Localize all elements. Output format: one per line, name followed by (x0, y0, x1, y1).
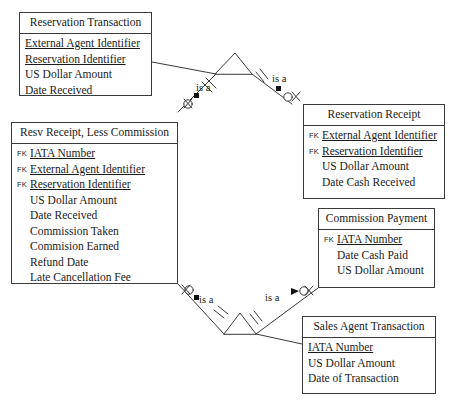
attribute-name: Reservation Identifier (25, 53, 126, 65)
attribute-name: Reservation Identifier (322, 145, 423, 157)
attribute-row: Date Received (17, 208, 172, 224)
fk-marker: FK (309, 128, 322, 144)
attribute-row: FKExternal Agent Identifier (17, 162, 172, 178)
mandatory-arrow-bottom-right (291, 288, 299, 295)
entity-attribute-list: FKIATA Number FKExternal Agent Identifie… (12, 144, 177, 289)
relationship-label-top-left: is a (196, 82, 210, 93)
cardinality-bar-bottom-left-b (218, 306, 228, 314)
cardinality-bar-top-right-b (260, 69, 268, 79)
entity-title: Commission Payment (319, 209, 434, 230)
attribute-name: Reservation Identifier (30, 178, 131, 190)
attribute-row: Commision Earned (17, 239, 172, 255)
attribute-row: US Dollar Amount (309, 159, 439, 175)
attribute-name: External Agent Identifier (30, 163, 145, 175)
attribute-row: External Agent Identifier (25, 36, 146, 52)
attribute-name: US Dollar Amount (308, 357, 395, 369)
fk-marker: FK (309, 144, 322, 160)
optional-circle-top-left (184, 100, 192, 108)
crowsfoot-top-right (292, 92, 300, 101)
attribute-name: External Agent Identifier (322, 129, 437, 141)
attribute-row: FKIATA Number (17, 146, 172, 162)
entity-attribute-list: FKExternal Agent Identifier FKReservatio… (304, 126, 444, 193)
attribute-row: Late Cancellation Fee (17, 270, 172, 286)
attribute-name: Late Cancellation Fee (30, 271, 131, 283)
attribute-name: Date Received (30, 209, 97, 221)
attribute-row: Date Received (25, 83, 146, 99)
entity-resv-receipt-less-commission[interactable]: Resv Receipt, Less Commission FKIATA Num… (11, 122, 178, 284)
bottom-subtype-triangle (224, 313, 256, 334)
line-subtype-resv-receipt-less-commission (178, 74, 216, 112)
attribute-row: FKReservation Identifier (309, 144, 439, 160)
attribute-name: US Dollar Amount (25, 68, 112, 80)
attribute-row: IATA Number (308, 340, 430, 356)
attribute-row: US Dollar Amount (324, 263, 429, 279)
crowsfoot-bottom-right (305, 286, 313, 295)
optional-circle-bottom-left (185, 286, 193, 294)
attribute-name: US Dollar Amount (30, 194, 117, 206)
attribute-row: Date Cash Paid (324, 248, 429, 264)
attribute-name: External Agent Identifier (25, 37, 140, 49)
fk-marker: FK (17, 146, 30, 162)
entity-title: Reservation Receipt (304, 105, 444, 126)
entity-title: Sales Agent Transaction (303, 317, 435, 338)
attribute-row: US Dollar Amount (308, 356, 430, 372)
attribute-name: Date of Transaction (308, 372, 399, 384)
crowsfoot-top-left (184, 99, 192, 108)
attribute-name: Date Received (25, 84, 92, 96)
attribute-row: Reservation Identifier (25, 52, 146, 68)
entity-attribute-list: External Agent Identifier Reservation Id… (20, 34, 151, 101)
entity-attribute-list: IATA Number US Dollar Amount Date of Tra… (303, 338, 435, 390)
fk-marker: FK (17, 177, 30, 193)
attribute-name: Date Cash Paid (337, 249, 408, 261)
attribute-row: Date Cash Received (309, 175, 439, 191)
attribute-row: US Dollar Amount (17, 193, 172, 209)
entity-reservation-receipt[interactable]: Reservation Receipt FKExternal Agent Ide… (303, 104, 445, 199)
cardinality-bar-bottom-left-a (214, 310, 224, 318)
entity-title: Resv Receipt, Less Commission (12, 123, 177, 144)
relationship-label-bottom-right: is a (265, 292, 279, 303)
line-supertype-reservation-transaction (152, 62, 216, 74)
attribute-name: IATA Number (30, 147, 95, 159)
fk-marker: FK (324, 232, 337, 248)
entity-reservation-transaction[interactable]: Reservation Transaction External Agent I… (19, 12, 152, 96)
fk-marker: FK (17, 162, 30, 178)
entity-title: Reservation Transaction (20, 13, 151, 34)
attribute-row: US Dollar Amount (25, 67, 146, 83)
cardinality-bar-top-right-a (256, 72, 264, 82)
attribute-name: US Dollar Amount (322, 160, 409, 172)
line-supertype-sales-agent-transaction (256, 334, 302, 344)
entity-sales-agent-transaction[interactable]: Sales Agent Transaction IATA Number US D… (302, 316, 436, 394)
relationship-label-bottom-left: is a (199, 294, 213, 305)
attribute-row: Refund Date (17, 255, 172, 271)
er-diagram-canvas: Reservation Transaction External Agent I… (0, 0, 454, 403)
attribute-row: Commission Taken (17, 224, 172, 240)
attribute-name: Refund Date (30, 256, 88, 268)
crowsfoot-bottom-left (182, 285, 190, 294)
mandatory-dot-top-left (194, 93, 199, 98)
attribute-name: Commission Taken (30, 225, 119, 237)
attribute-name: IATA Number (337, 233, 402, 245)
attribute-row: Date of Transaction (308, 371, 430, 387)
cardinality-bar-bottom-right-b (254, 311, 262, 321)
entity-commission-payment[interactable]: Commission Payment FKIATA Number Date Ca… (318, 208, 435, 288)
relationship-label-top-right: is a (272, 73, 286, 84)
attribute-row: FKIATA Number (324, 232, 429, 248)
mandatory-dot-top-right (276, 86, 281, 91)
optional-circle-top-right (284, 93, 292, 101)
attribute-name: IATA Number (308, 341, 373, 353)
attribute-name: Date Cash Received (322, 176, 415, 188)
optional-circle-bottom-right (300, 287, 308, 295)
attribute-row: FKReservation Identifier (17, 177, 172, 193)
cardinality-bar-bottom-right-a (250, 314, 258, 324)
entity-attribute-list: FKIATA Number Date Cash Paid US Dollar A… (319, 230, 434, 282)
attribute-name: US Dollar Amount (337, 264, 424, 276)
top-subtype-triangle (215, 53, 252, 74)
attribute-row: FKExternal Agent Identifier (309, 128, 439, 144)
line-subtype-bottom-left (178, 284, 224, 334)
attribute-name: Commision Earned (30, 240, 119, 252)
